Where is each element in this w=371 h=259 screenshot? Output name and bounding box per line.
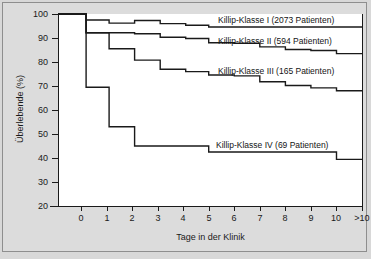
x-tick (285, 206, 286, 211)
x-tick (81, 206, 82, 211)
y-tick (52, 14, 58, 15)
y-axis-label: Überlebende (%) (15, 49, 25, 169)
y-tick-label: 90 (18, 34, 48, 43)
y-tick (52, 110, 58, 111)
x-tick (209, 206, 210, 211)
x-tick (183, 206, 184, 211)
x-tick-label: 4 (170, 213, 196, 223)
y-tick (52, 182, 58, 183)
x-tick (362, 206, 363, 211)
y-tick (52, 62, 58, 63)
chart-figure: 1009080706050403020 012345678910>10 Kill… (0, 0, 371, 259)
series-label-killip-2: Killip-Klasse II (594 Patienten) (218, 36, 332, 46)
y-tick (52, 86, 58, 87)
y-tick (52, 38, 58, 39)
y-tick-label: 100 (18, 10, 48, 19)
x-tick-label: 3 (145, 213, 171, 223)
y-tick-label: 30 (18, 178, 48, 187)
x-tick (336, 206, 337, 211)
plot-right-border (362, 14, 363, 206)
x-tick-label: 6 (221, 213, 247, 223)
x-tick-label: >10 (349, 213, 371, 223)
y-tick-label: 20 (18, 202, 48, 211)
y-tick (52, 134, 58, 135)
x-tick-label: 8 (272, 213, 298, 223)
x-tick-label: 10 (323, 213, 349, 223)
x-tick-label: 9 (298, 213, 324, 223)
x-tick (132, 206, 133, 211)
x-tick (107, 206, 108, 211)
x-tick (311, 206, 312, 211)
x-tick-label: 2 (119, 213, 145, 223)
x-tick-label: 0 (68, 213, 94, 223)
x-axis-line (50, 206, 363, 207)
y-tick (52, 206, 58, 207)
y-tick (52, 158, 58, 159)
x-tick-label: 5 (196, 213, 222, 223)
x-tick-label: 1 (94, 213, 120, 223)
x-axis-label: Tage in der Klinik (58, 232, 363, 242)
x-tick (158, 206, 159, 211)
x-tick (234, 206, 235, 211)
x-tick-label: 7 (247, 213, 273, 223)
series-label-killip-1: Killip-Klasse I (2073 Patienten) (218, 15, 334, 25)
y-axis-line (58, 14, 59, 206)
series-label-killip-4: Killip-Klasse IV (69 Patienten) (216, 140, 328, 150)
x-tick (260, 206, 261, 211)
series-label-killip-3: Killip-Klasse III (165 Patienten) (218, 66, 334, 76)
